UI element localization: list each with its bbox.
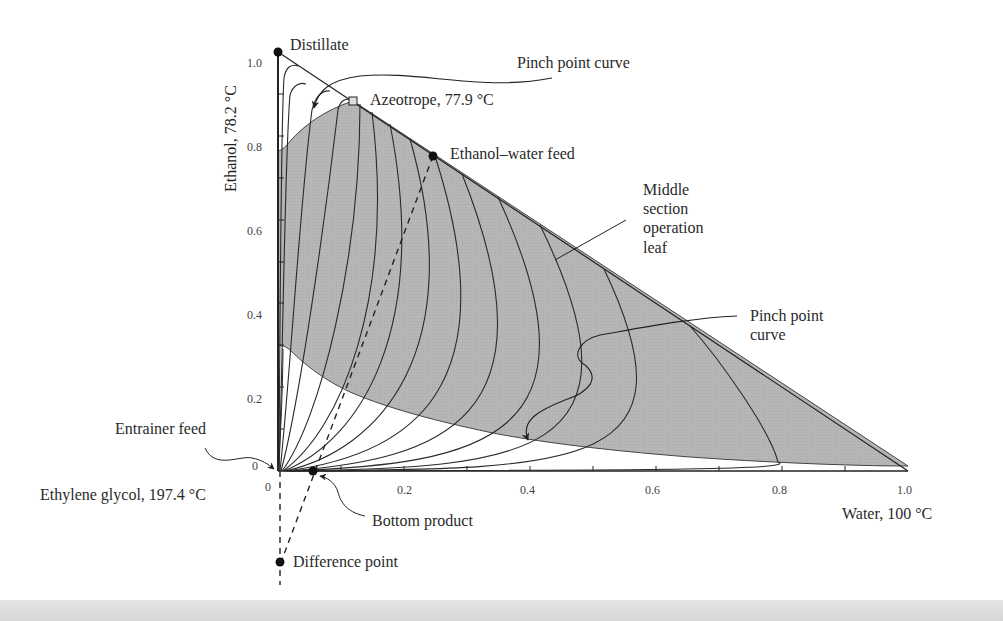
middle-leaf-line-1: Middle	[643, 180, 733, 199]
x-tick-0.6: 0.6	[645, 483, 660, 498]
x-tick-0.8: 0.8	[772, 483, 787, 498]
y-tick-0.6: 0.6	[247, 224, 262, 239]
ternary-diagram: 1.0 0.8 0.6 0.4 0.2 0 0 0.2 0.4 0.6 0.8 …	[0, 0, 1003, 621]
diagram-canvas	[0, 0, 1003, 621]
entrainer-feed-arrow	[205, 448, 274, 469]
middle-leaf-line-3: operation	[643, 218, 733, 237]
y-tick-1.0: 1.0	[247, 56, 262, 71]
difference-point	[276, 558, 285, 567]
x-axis-title: Water, 100 °C	[842, 505, 932, 523]
ethanol-water-feed-label: Ethanol–water feed	[450, 145, 575, 163]
middle-leaf-leader	[555, 220, 626, 260]
origin-label: Ethylene glycol, 197.4 °C	[40, 486, 206, 504]
page-edge-band	[0, 600, 1003, 621]
x-tick-0: 0	[265, 480, 271, 495]
azeotrope-label: Azeotrope, 77.9 °C	[370, 91, 494, 109]
middle-section-leaf-label: Middle section operation leaf	[643, 180, 733, 257]
pinch-point-curve-right-label: Pinch point curve	[750, 306, 840, 344]
pinch-right-line-2: curve	[750, 325, 840, 344]
y-tick-0.2: 0.2	[247, 392, 262, 407]
middle-leaf-line-4: leaf	[643, 238, 733, 257]
x-tick-1.0: 1.0	[897, 483, 912, 498]
x-tick-0.4: 0.4	[520, 483, 535, 498]
entrainer-feed-label: Entrainer feed	[115, 420, 206, 438]
y-tick-0.8: 0.8	[247, 140, 262, 155]
ethanol-water-feed-point	[429, 152, 438, 161]
y-axis-title: Ethanol, 78.2 °C	[222, 85, 240, 192]
middle-leaf-line-2: section	[643, 199, 733, 218]
distillate-label: Distillate	[290, 36, 349, 54]
y-tick-0: 0	[252, 459, 258, 474]
difference-point-label: Difference point	[293, 553, 398, 571]
bottom-product-point	[309, 467, 318, 476]
bottom-product-label: Bottom product	[372, 512, 473, 530]
middle-section-leaf-region	[278, 101, 908, 466]
azeotrope-marker	[349, 97, 357, 105]
pinch-right-line-1: Pinch point	[750, 306, 840, 325]
pinch-point-curve-top-label: Pinch point curve	[517, 54, 630, 72]
bottom-product-arrow	[320, 476, 365, 516]
distillate-point	[274, 48, 283, 57]
y-tick-0.4: 0.4	[247, 308, 262, 323]
x-tick-0.2: 0.2	[397, 483, 412, 498]
